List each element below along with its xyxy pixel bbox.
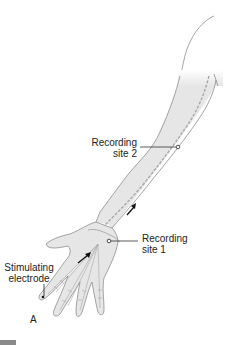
label-stimulating-electrode-line1: Stimulating — [3, 262, 55, 273]
label-recording-site-2-line1: Recording — [85, 137, 137, 148]
label-stimulating-electrode: Stimulating electrode — [3, 262, 55, 284]
electrode-tip — [42, 296, 45, 299]
label-recording-site-1: Recording site 1 — [142, 233, 188, 255]
recording-site-2-marker — [176, 145, 180, 149]
shoulder-outline — [180, 16, 214, 76]
recording-site-1-marker — [107, 239, 111, 243]
label-recording-site-2-line2: site 2 — [85, 148, 137, 159]
label-recording-site-1-line1: Recording — [142, 233, 188, 244]
label-stimulating-electrode-line2: electrode — [3, 273, 55, 284]
bottom-bar — [0, 340, 16, 345]
label-recording-site-1-line2: site 1 — [142, 244, 188, 255]
arm-illustration — [0, 0, 233, 345]
panel-label: A — [30, 314, 37, 325]
label-recording-site-2: Recording site 2 — [85, 137, 137, 159]
